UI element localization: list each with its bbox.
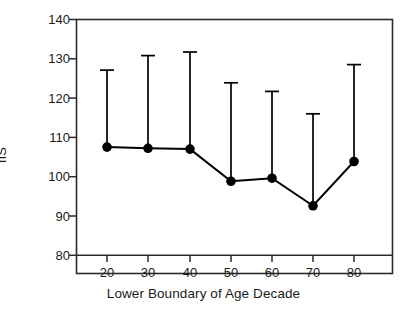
- x-tick-label: 40: [170, 266, 210, 279]
- x-tick-label: 50: [211, 266, 251, 279]
- x-tick-label: 80: [334, 266, 374, 279]
- x-tick-label: 20: [87, 266, 127, 279]
- x-axis-tick-labels: 20 30 40 50 60 70 80: [0, 0, 407, 310]
- chart-figure: IIS 140 130 120 110 100 90 80: [0, 0, 407, 310]
- x-tick-label: 60: [252, 266, 292, 279]
- x-tick-label: 30: [128, 266, 168, 279]
- x-tick-label: 70: [293, 266, 333, 279]
- x-axis-title: Lower Boundary of Age Decade: [0, 286, 407, 301]
